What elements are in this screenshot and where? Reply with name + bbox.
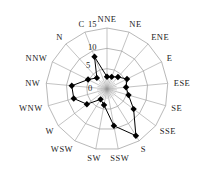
data-point-marker — [85, 76, 91, 82]
direction-label-w: W — [46, 126, 55, 136]
radial-tick-label: 10 — [88, 42, 97, 52]
direction-label-ese: ESE — [174, 78, 191, 88]
wind-rose-chart: 051015 CNNENEENEEESESESSESSSWSWWSWWWNWNW… — [0, 0, 207, 183]
data-point-marker — [124, 76, 130, 82]
data-point-marker — [133, 132, 139, 138]
data-point-marker — [101, 102, 107, 108]
chart-grid — [46, 28, 167, 149]
direction-label-nne: NNE — [98, 14, 117, 24]
direction-label-se: SE — [171, 103, 182, 113]
radial-tick-label: 0 — [88, 83, 92, 93]
data-point-marker — [130, 106, 136, 112]
data-point-marker — [69, 83, 75, 89]
data-point-marker — [91, 54, 97, 60]
direction-label-wsw: WSW — [51, 144, 73, 154]
direction-label-c: C — [79, 19, 85, 29]
direction-label-ssw: SSW — [110, 153, 129, 163]
direction-label-s: S — [141, 144, 146, 154]
direction-label-ne: NE — [129, 19, 141, 29]
radial-tick-label: 15 — [88, 19, 97, 29]
direction-label-wnw: WNW — [19, 103, 43, 113]
direction-label-sse: SSE — [160, 126, 176, 136]
data-point-marker — [71, 95, 77, 101]
data-point-marker — [109, 74, 115, 80]
grid-spoke — [107, 44, 148, 89]
direction-label-e: E — [167, 53, 173, 63]
data-point-marker — [125, 92, 131, 98]
data-series — [69, 54, 140, 139]
direction-label-ene: ENE — [151, 32, 169, 42]
data-point-marker — [97, 96, 103, 102]
data-point-marker — [84, 101, 90, 107]
data-point-marker — [123, 84, 129, 90]
radial-tick-label: 5 — [86, 60, 90, 70]
direction-label-sw: SW — [87, 153, 101, 163]
direction-label-n: N — [56, 32, 63, 42]
direction-label-nnw: NNW — [26, 53, 48, 63]
direction-label-nw: NW — [25, 78, 40, 88]
